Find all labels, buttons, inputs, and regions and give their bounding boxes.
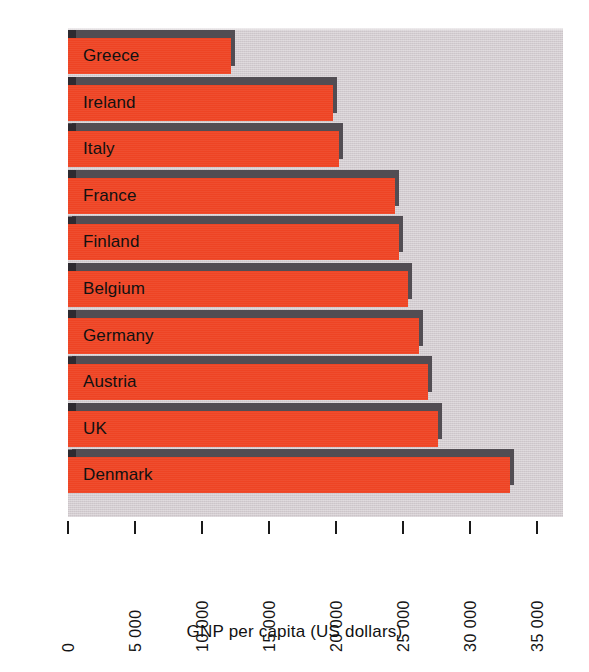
bar-label: Ireland xyxy=(83,85,136,121)
bar-row: Ireland xyxy=(68,77,343,123)
bar-label: Germany xyxy=(83,318,154,354)
bar-row: Denmark xyxy=(68,449,520,495)
x-tick-mark xyxy=(335,521,337,534)
bar-label: Denmark xyxy=(83,457,153,493)
plot-area: GreeceIrelandItalyFranceFinlandBelgiumGe… xyxy=(68,28,563,517)
bar-label: France xyxy=(83,178,137,214)
bar-row: Finland xyxy=(68,216,409,262)
x-tick-mark xyxy=(201,521,203,534)
x-tick-mark xyxy=(402,521,404,534)
x-tick-mark xyxy=(134,521,136,534)
bar-row: Belgium xyxy=(68,263,418,309)
bar-row: UK xyxy=(68,403,448,449)
bar-label: UK xyxy=(83,411,107,447)
x-axis-title: GNP per capita (US dollars) xyxy=(0,622,589,642)
bar-label: Belgium xyxy=(83,271,145,307)
x-tick-mark xyxy=(67,521,69,534)
bar-row: France xyxy=(68,170,405,216)
x-tick-mark xyxy=(469,521,471,534)
x-tick-mark xyxy=(268,521,270,534)
bar-label: Italy xyxy=(83,131,115,167)
bar-row: Germany xyxy=(68,310,429,356)
bar-label: Greece xyxy=(83,38,139,74)
bar-fill[interactable] xyxy=(68,411,438,447)
bar-label: Finland xyxy=(83,224,139,260)
bar-row: Italy xyxy=(68,123,349,169)
gnp-per-capita-bar-chart: EU members GreeceIrelandItalyFranceFinla… xyxy=(0,0,589,672)
bar-row: Austria xyxy=(68,356,438,402)
x-tick-mark xyxy=(536,521,538,534)
bar-label: Austria xyxy=(83,364,137,400)
bar-row: Greece xyxy=(68,30,241,76)
